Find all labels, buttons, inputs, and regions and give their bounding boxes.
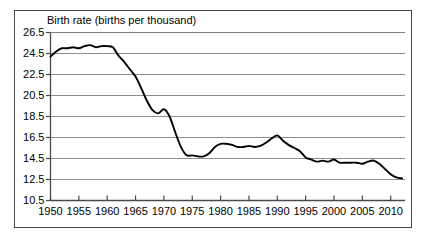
gridlines-group (51, 33, 406, 201)
y-tick-marks-group (46, 33, 51, 201)
y-tick-label: 16.5 (13, 131, 45, 143)
chart-title: Birth rate (births per thousand) (47, 14, 196, 26)
x-tick-label: 2010 (371, 205, 411, 217)
y-tick-label: 14.5 (13, 152, 45, 164)
y-tick-label: 18.5 (13, 110, 45, 122)
y-tick-label: 24.5 (13, 47, 45, 59)
y-tick-label: 12.5 (13, 173, 45, 185)
y-tick-label: 26.5 (13, 26, 45, 38)
y-tick-label: 22.5 (13, 68, 45, 80)
chart-figure: Birth rate (births per thousand) 10.512.… (0, 0, 423, 243)
x-tick-marks-group (51, 196, 391, 201)
y-tick-label: 20.5 (13, 89, 45, 101)
